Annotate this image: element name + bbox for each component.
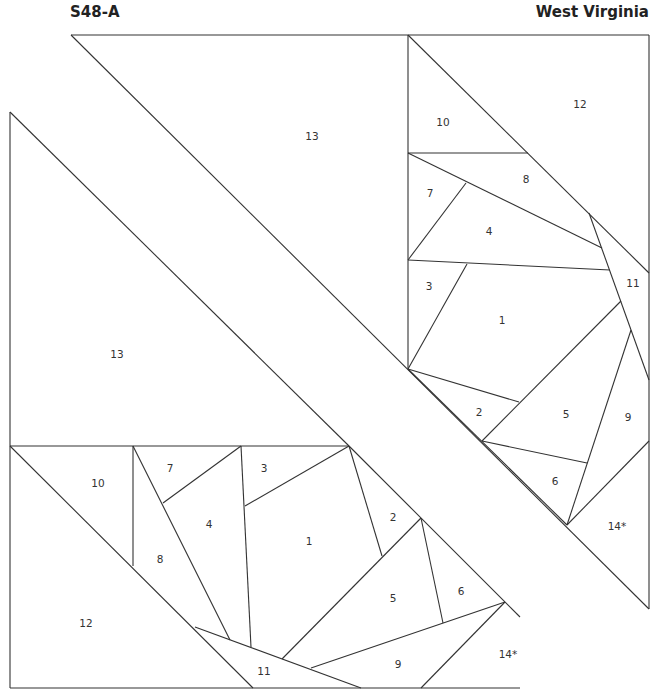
piece-label: 2 [390,511,397,523]
quilt-pattern-diagram: 13 10 12 8 7 4 11 3 1 2 5 9 6 14* 13 10 … [0,0,657,693]
piece-label: 11 [626,277,639,289]
piece-label: 14* [499,648,518,660]
piece-label: 13 [110,348,123,360]
piece-label: 4 [486,225,493,237]
piece-label: 1 [306,535,313,547]
piece-label: 5 [563,408,570,420]
piece-label: 8 [523,173,530,185]
piece-label: 12 [573,98,586,110]
piece-label: 10 [91,477,104,489]
lower-block-labels: 13 10 7 3 4 2 1 8 5 6 12 14* 9 11 [79,348,517,677]
piece-label: 9 [395,658,402,670]
piece-label: 2 [476,406,483,418]
piece-label: 8 [157,553,164,565]
piece-label: 13 [305,130,318,142]
lower-block [10,112,520,688]
piece-label: 6 [458,585,465,597]
piece-label: 11 [257,665,270,677]
piece-label: 3 [261,462,268,474]
upper-block [71,35,649,609]
piece-label: 6 [552,475,559,487]
piece-label: 9 [625,411,632,423]
piece-label: 1 [499,314,506,326]
piece-label: 7 [427,187,434,199]
piece-label: 14* [608,520,627,532]
piece-label: 10 [436,116,449,128]
piece-label: 3 [426,280,433,292]
piece-label: 4 [206,518,213,530]
piece-label: 7 [167,462,174,474]
piece-label: 12 [79,617,92,629]
piece-label: 5 [390,592,397,604]
